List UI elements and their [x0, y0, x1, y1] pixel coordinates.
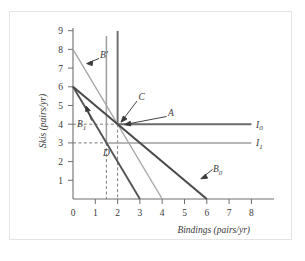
x-axis-tick-labels: 0 1 2 3 4 5 6 7 8	[71, 208, 254, 218]
indifference-curve-I1	[106, 36, 251, 143]
x-tick-label-2: 2	[115, 208, 120, 218]
label-B1: B1	[77, 119, 86, 132]
y-tick-label-7: 7	[58, 64, 63, 74]
x-tick-label-6: 6	[204, 208, 209, 218]
label-point-A: A	[167, 108, 174, 118]
arrow-head-C	[121, 116, 127, 122]
arrow-line-C	[123, 101, 137, 120]
label-I1: I1	[255, 138, 263, 151]
y-tick-label-6: 6	[58, 82, 63, 92]
x-tick-label-1: 1	[93, 208, 98, 218]
label-point-C: C	[139, 92, 146, 102]
label-point-D: D	[102, 148, 110, 158]
x-tick-label-8: 8	[249, 208, 254, 218]
x-tick-label-3: 3	[138, 208, 143, 218]
y-tick-label-3: 3	[58, 138, 63, 148]
x-tick-label-7: 7	[227, 208, 232, 218]
y-axis-tick-labels: 9 8 7 6 5 4 3 2 1	[58, 26, 63, 186]
y-tick-label-2: 2	[58, 157, 63, 167]
x-axis-title: Bindings (pairs/yr)	[177, 225, 250, 236]
x-tick-label-4: 4	[160, 208, 165, 218]
label-B-prime: B'	[100, 50, 109, 60]
series-I1	[106, 36, 251, 143]
y-tick-label-4: 4	[58, 120, 63, 130]
y-tick-label-5: 5	[58, 101, 63, 111]
y-tick-label-9: 9	[58, 26, 63, 36]
chart-canvas: 9 8 7 6 5 4 3 2 1 0 1 2 3 4 5 6 7 8	[0, 0, 305, 261]
y-axis-ticks	[68, 31, 73, 181]
arrow-head-B0	[201, 174, 208, 179]
series-I0	[118, 31, 252, 124]
label-I0: I0	[255, 120, 263, 133]
y-axis-title: Skis (pairs/yr)	[38, 94, 49, 148]
arrow-line-A	[128, 117, 167, 125]
y-tick-label-8: 8	[58, 45, 63, 55]
label-B0: B0	[213, 164, 223, 177]
arrow-head-A	[125, 121, 131, 126]
dashed-guides	[73, 124, 118, 199]
indifference-curve-I0	[118, 31, 252, 124]
y-tick-label-1: 1	[58, 176, 63, 186]
annotation-arrows	[86, 59, 213, 179]
arrow-head-B1	[86, 106, 91, 111]
x-tick-label-5: 5	[182, 208, 187, 218]
x-tick-label-0: 0	[71, 208, 76, 218]
arrow-head-B-prime	[87, 61, 93, 66]
x-axis-ticks	[95, 199, 251, 204]
